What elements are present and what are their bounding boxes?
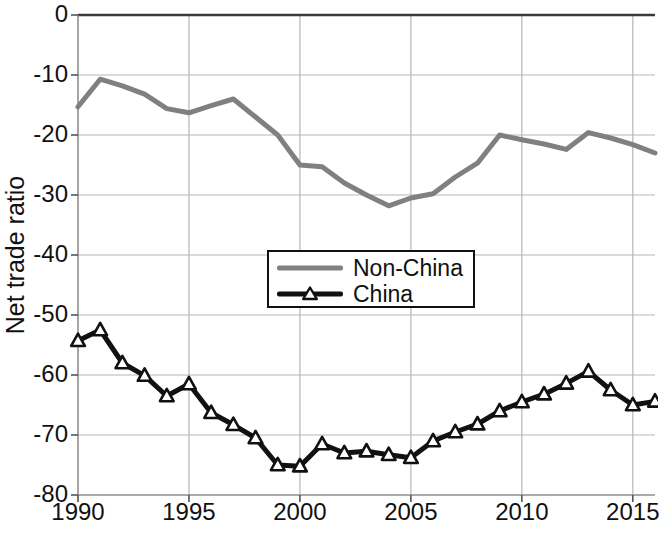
y-axis-tick-label: -50 [0,302,68,326]
x-axis-tick-label: 2000 [255,500,345,524]
x-axis-tick-label: 2010 [477,500,567,524]
y-axis-tick-label: 0 [0,2,68,26]
x-axis-tick-label: 1990 [33,500,123,524]
y-axis-tick-label: -40 [0,242,68,266]
y-axis-tick-label: -20 [0,122,68,146]
y-axis-tick-label: -10 [0,62,68,86]
legend-item-china[interactable]: China [273,281,469,307]
legend-triangle-marker-icon [301,285,319,303]
x-axis-tick-label: 2005 [366,500,456,524]
legend-swatch-icon [273,281,347,307]
legend-item-non-china[interactable]: Non-China [273,255,469,281]
legend-line-icon [277,266,343,271]
legend-swatch-icon [273,255,347,281]
legend-label: China [347,283,413,306]
x-axis-tick-label: 2015 [588,500,664,524]
y-axis-tick-label: -30 [0,182,68,206]
y-axis-tick-label: -70 [0,422,68,446]
chart-legend: Non-ChinaChina [267,250,475,308]
legend-label: Non-China [347,257,463,280]
y-axis-tick-label: -60 [0,362,68,386]
x-axis-tick-label: 1995 [144,500,234,524]
